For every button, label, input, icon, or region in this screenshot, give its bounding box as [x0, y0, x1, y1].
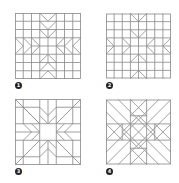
quilt-block-2-drawing	[106, 13, 171, 79]
quilt-block-4	[106, 99, 171, 165]
quilt-block-1-drawing	[15, 13, 81, 79]
panel-badge-2: 2	[106, 82, 113, 89]
quilt-block-4-drawing	[106, 99, 171, 165]
panel-badge-1: 1	[15, 82, 22, 89]
quilt-block-1	[15, 13, 81, 79]
quilt-block-3-drawing	[15, 99, 81, 165]
quilt-block-2	[106, 13, 171, 79]
quilt-block-3	[15, 99, 81, 165]
panel-badge-4: 4	[106, 168, 113, 175]
panel-badge-3: 3	[15, 168, 22, 175]
